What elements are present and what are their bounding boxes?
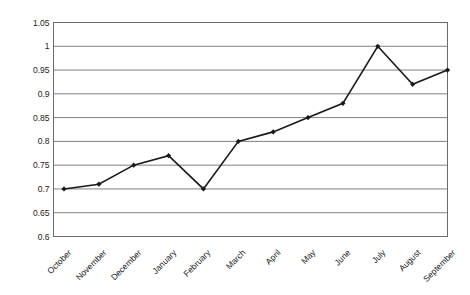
- y-axis-tick-label: 0.95: [6, 65, 50, 75]
- data-point-marker: [271, 129, 276, 134]
- y-axis-tick-label: 1: [6, 41, 50, 51]
- y-axis-tick-label: 1.05: [6, 18, 50, 28]
- y-axis-tick-label: 0.75: [6, 160, 50, 170]
- y-axis-tick-label: 0.7: [6, 184, 50, 194]
- plot-border: [54, 23, 448, 237]
- y-axis-tick-label: 0.6: [6, 232, 50, 242]
- y-axis-tick-label: 0.85: [6, 113, 50, 123]
- data-point-marker: [445, 67, 450, 72]
- data-point-marker: [305, 115, 310, 120]
- y-axis-tick-label: 0.8: [6, 136, 50, 146]
- y-axis-tick-label: 0.9: [6, 89, 50, 99]
- grid-lines: [54, 46, 448, 236]
- plot-area-border: [54, 23, 448, 237]
- y-axis-tick-label: 0.65: [6, 208, 50, 218]
- line-chart: 0.60.650.70.750.80.850.90.9511.05 Octobe…: [0, 0, 470, 295]
- data-point-marker: [61, 186, 66, 191]
